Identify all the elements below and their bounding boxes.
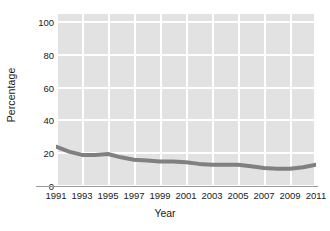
x-tick-label: 1999 bbox=[149, 190, 170, 201]
y-axis-title-text: Percentage bbox=[5, 68, 17, 123]
x-tick-label: 1993 bbox=[71, 190, 92, 201]
x-tick-label: 2011 bbox=[306, 190, 326, 201]
y-axis-tick-labels: 020406080100 bbox=[22, 0, 54, 190]
x-tick-label: 2005 bbox=[227, 190, 248, 201]
x-axis-title: Year bbox=[0, 207, 330, 219]
x-tick-label: 2007 bbox=[253, 190, 274, 201]
y-tick-label: 20 bbox=[26, 148, 54, 159]
y-axis-title: Percentage bbox=[2, 0, 20, 190]
y-tick-label: 100 bbox=[26, 17, 54, 28]
x-tick-label: 2001 bbox=[175, 190, 196, 201]
y-tick-label: 80 bbox=[26, 49, 54, 60]
x-tick-label: 2003 bbox=[201, 190, 222, 201]
x-tick-label: 2009 bbox=[279, 190, 300, 201]
x-tick-label: 1995 bbox=[97, 190, 118, 201]
y-tick-label: 40 bbox=[26, 115, 54, 126]
plot-area bbox=[56, 14, 316, 186]
x-tick-label: 1997 bbox=[123, 190, 144, 201]
line-chart: Percentage 020406080100 1991199319951997… bbox=[0, 0, 330, 231]
y-tick-label: 60 bbox=[26, 82, 54, 93]
series-layer bbox=[56, 14, 316, 186]
series-line-percentage bbox=[56, 147, 316, 169]
x-axis-line bbox=[36, 186, 318, 187]
x-tick-label: 1991 bbox=[45, 190, 66, 201]
